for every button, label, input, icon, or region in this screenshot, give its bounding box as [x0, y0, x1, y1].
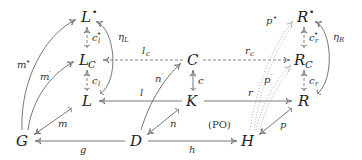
- svg-text:•: •: [273, 14, 277, 22]
- svg-text:c: c: [198, 75, 204, 86]
- svg-text:R: R: [297, 92, 309, 110]
- svg-text:′: ′: [49, 70, 51, 78]
- svg-text:p: p: [264, 74, 271, 85]
- arrow-g: g: [36, 141, 125, 155]
- node-k: K: [185, 92, 198, 110]
- svg-text:p: p: [280, 119, 287, 130]
- svg-text:r: r: [315, 37, 319, 45]
- svg-text:′: ′: [271, 73, 273, 81]
- node-r-bullet: R •: [296, 7, 314, 26]
- svg-text:•: •: [309, 7, 314, 17]
- arrow-cr-bullet: c r •: [304, 28, 319, 48]
- svg-text:l: l: [142, 45, 145, 56]
- node-r-c: R C: [293, 51, 313, 70]
- svg-text:H: H: [240, 132, 255, 150]
- svg-text:g: g: [80, 144, 86, 155]
- svg-text:K: K: [185, 92, 198, 110]
- pushout-annotation: (PO): [208, 119, 231, 130]
- arrow-cr: c r: [304, 71, 319, 91]
- svg-text:p: p: [266, 15, 273, 26]
- arrow-cl: c l: [87, 71, 100, 91]
- svg-text:R: R: [296, 8, 308, 26]
- svg-text:•: •: [97, 30, 101, 38]
- node-g: G: [16, 132, 28, 150]
- commutative-diagram: c l • c l η L l c r c c l r c r: [0, 0, 362, 160]
- svg-text:n: n: [170, 118, 176, 129]
- svg-text:l: l: [98, 37, 100, 45]
- arrow-l: l: [100, 87, 182, 101]
- svg-text:•: •: [314, 30, 318, 38]
- node-h: H: [240, 132, 255, 150]
- node-l-bullet: L •: [80, 7, 97, 26]
- svg-text:L: L: [123, 36, 129, 44]
- arrow-c: c: [193, 71, 204, 91]
- svg-text:D: D: [129, 132, 142, 150]
- node-l-c: L C: [78, 51, 96, 70]
- svg-text:r: r: [248, 87, 254, 98]
- svg-text:r: r: [315, 80, 319, 88]
- node-c: C: [187, 51, 199, 69]
- svg-text:c: c: [146, 50, 150, 58]
- svg-text:R: R: [338, 36, 345, 44]
- svg-text:m: m: [58, 118, 67, 129]
- arrow-eta-l: η L: [97, 22, 129, 94]
- arrow-p: p: [260, 108, 292, 134]
- svg-text:•: •: [92, 7, 97, 17]
- svg-text:•: •: [26, 58, 30, 66]
- svg-text:′: ′: [162, 72, 164, 80]
- arrow-lc: l c: [104, 45, 183, 60]
- arrow-p-bullet: p •: [250, 14, 294, 130]
- arrow-cl-bullet: c l •: [87, 28, 101, 48]
- svg-text:L: L: [80, 8, 91, 26]
- svg-text:L: L: [81, 92, 92, 110]
- svg-text:n: n: [155, 73, 161, 84]
- svg-text:l: l: [140, 87, 143, 98]
- arrow-m: m: [35, 108, 72, 134]
- svg-text:C: C: [305, 59, 313, 70]
- svg-text:R: R: [293, 51, 305, 69]
- svg-text:c: c: [250, 50, 254, 58]
- arrow-h: h: [148, 141, 236, 155]
- svg-text:h: h: [189, 144, 195, 155]
- svg-text:C: C: [187, 51, 199, 69]
- arrow-r: r: [204, 87, 291, 101]
- arrow-n: n: [148, 109, 179, 134]
- node-d: D: [129, 132, 142, 150]
- svg-text:C: C: [88, 59, 96, 70]
- svg-text:l: l: [98, 80, 100, 88]
- arrow-p-prime: p ′: [256, 66, 292, 130]
- node-r: R: [297, 92, 309, 110]
- node-l: L: [81, 92, 92, 110]
- svg-text:G: G: [16, 132, 28, 150]
- arrow-eta-r: η R: [316, 22, 345, 94]
